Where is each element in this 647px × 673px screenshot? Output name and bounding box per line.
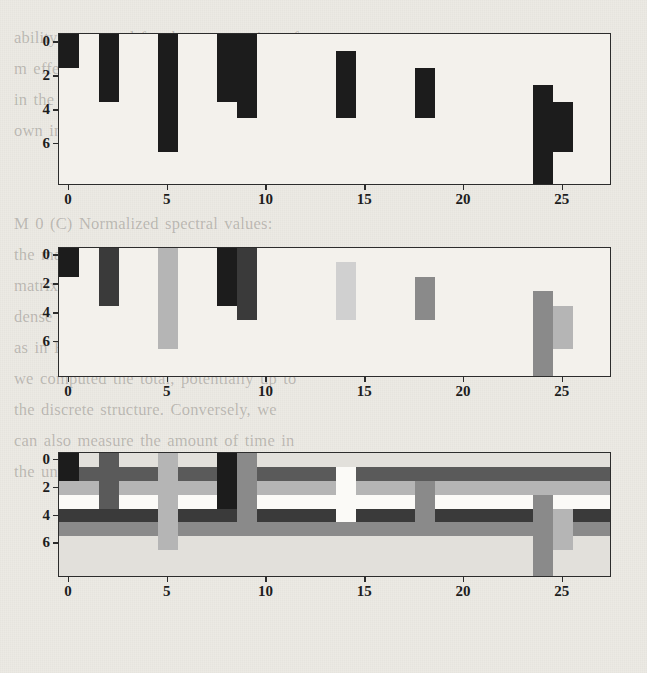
matrix-block <box>99 248 119 306</box>
matrix-block <box>59 248 79 277</box>
matrix-block <box>553 306 573 349</box>
matrix-block <box>553 509 573 551</box>
matrix-block <box>533 291 553 377</box>
x-tick-mark <box>364 577 366 582</box>
row-band <box>59 550 611 564</box>
row-band <box>59 453 611 467</box>
x-tick-mark <box>68 185 70 190</box>
x-tick-mark <box>265 577 267 582</box>
matrix-block <box>217 453 237 509</box>
y-tick-label: 2 <box>43 478 51 495</box>
x-tick-label: 5 <box>163 383 171 400</box>
x-tick-label: 0 <box>64 191 72 208</box>
y-tick-mark <box>53 109 58 111</box>
y-tick-label: 0 <box>43 246 51 263</box>
matrix-block <box>59 453 79 481</box>
x-tick-label: 5 <box>163 583 171 600</box>
y-tick-mark <box>53 459 58 461</box>
y-axis-1: 0246 <box>32 33 58 185</box>
matrix-block <box>158 453 178 550</box>
y-axis-2: 0246 <box>32 247 58 377</box>
y-tick-label: 4 <box>43 304 51 321</box>
y-tick-mark <box>53 254 58 256</box>
x-axis-1: 0510152025 <box>0 185 647 209</box>
row-band <box>59 536 611 550</box>
y-tick-label: 6 <box>43 534 51 551</box>
row-band <box>59 522 611 536</box>
x-tick-mark <box>68 377 70 382</box>
x-tick-mark <box>562 185 564 190</box>
x-tick-mark <box>562 577 564 582</box>
y-tick-label: 4 <box>43 506 51 523</box>
x-tick-mark <box>364 185 366 190</box>
x-tick-label: 10 <box>258 191 273 208</box>
matrix-block <box>415 277 435 320</box>
x-tick-label: 25 <box>554 191 569 208</box>
matrix-block <box>99 34 119 102</box>
x-tick-label: 10 <box>258 383 273 400</box>
y-tick-label: 6 <box>43 332 51 349</box>
x-tick-label: 20 <box>455 191 470 208</box>
matrix-block <box>237 34 257 118</box>
x-tick-mark <box>167 185 169 190</box>
x-tick-mark <box>463 185 465 190</box>
chart-panel-1: 05101520250246 <box>0 33 647 215</box>
x-tick-mark <box>463 577 465 582</box>
matrix-block <box>237 453 257 522</box>
plot-area-1 <box>58 33 611 185</box>
x-tick-mark <box>167 377 169 382</box>
x-tick-label: 20 <box>455 583 470 600</box>
y-tick-mark <box>53 312 58 314</box>
x-tick-mark <box>265 185 267 190</box>
y-tick-label: 2 <box>43 275 51 292</box>
y-tick-mark <box>53 515 58 517</box>
matrix-block <box>158 248 178 349</box>
x-tick-mark <box>68 577 70 582</box>
x-tick-mark <box>364 377 366 382</box>
matrix-block <box>415 68 435 119</box>
y-tick-label: 0 <box>43 450 51 467</box>
figure-stack: 0510152025024605101520250246051015202502… <box>0 0 647 673</box>
y-tick-mark <box>53 542 58 544</box>
matrix-block <box>533 495 553 577</box>
matrix-block <box>553 102 573 153</box>
x-tick-mark <box>562 377 564 382</box>
x-axis-2: 0510152025 <box>0 377 647 401</box>
matrix-block <box>336 262 356 320</box>
x-tick-label: 0 <box>64 383 72 400</box>
x-tick-label: 10 <box>258 583 273 600</box>
y-tick-mark <box>53 487 58 489</box>
y-tick-mark <box>53 341 58 343</box>
chart-panel-3: 05101520250246 <box>0 452 647 607</box>
x-axis-3: 0510152025 <box>0 577 647 601</box>
y-tick-label: 0 <box>43 33 51 50</box>
matrix-block <box>99 453 119 509</box>
y-tick-label: 2 <box>43 67 51 84</box>
y-axis-3: 0246 <box>32 452 58 577</box>
x-tick-label: 25 <box>554 583 569 600</box>
y-tick-mark <box>53 143 58 145</box>
matrix-block <box>237 248 257 320</box>
matrix-block <box>217 248 237 306</box>
plot-area-2 <box>58 247 611 377</box>
x-tick-mark <box>167 577 169 582</box>
x-tick-label: 25 <box>554 383 569 400</box>
x-tick-mark <box>265 377 267 382</box>
chart-panel-2: 05101520250246 <box>0 247 647 407</box>
matrix-block <box>336 51 356 119</box>
row-band <box>59 564 611 577</box>
y-tick-mark <box>53 75 58 77</box>
x-tick-label: 0 <box>64 583 72 600</box>
x-tick-label: 15 <box>357 583 372 600</box>
matrix-block <box>59 34 79 68</box>
x-tick-label: 5 <box>163 191 171 208</box>
x-tick-label: 15 <box>357 191 372 208</box>
x-tick-mark <box>463 377 465 382</box>
x-tick-label: 20 <box>455 383 470 400</box>
matrix-block <box>415 481 435 523</box>
y-tick-mark <box>53 41 58 43</box>
matrix-block <box>158 34 178 152</box>
matrix-block <box>533 85 553 185</box>
matrix-block <box>217 34 237 102</box>
x-tick-label: 15 <box>357 383 372 400</box>
